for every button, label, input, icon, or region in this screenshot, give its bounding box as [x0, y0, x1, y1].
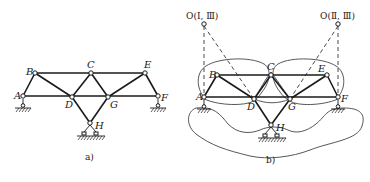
label-b-a: B [25, 66, 33, 77]
node-e [143, 71, 147, 75]
caption-a: a) [85, 152, 94, 162]
label-g-a: G [110, 99, 118, 110]
hinge-nodes-a [21, 71, 160, 125]
label-d-b: D [246, 101, 255, 112]
node-h [88, 121, 92, 125]
label-d-a: D [64, 99, 73, 110]
label-b-b: B [208, 69, 216, 80]
node-h [269, 123, 273, 127]
instant-center-1-3 [202, 22, 206, 26]
node-f [336, 95, 340, 99]
label-f-a: F [160, 92, 169, 103]
node-b [33, 71, 37, 75]
label-a-a: A [13, 90, 21, 101]
truss-diagram: A B C D E F G H a) [0, 0, 370, 182]
label-h-a: H [94, 120, 104, 131]
node-e [325, 73, 329, 77]
label-a-b: A [195, 91, 203, 102]
node-c [269, 73, 273, 77]
instant-center-2-3 [336, 22, 340, 26]
figure-b: O(Ⅰ, Ⅲ) O(Ⅱ, Ⅲ) A B C D E F G H b) [186, 11, 363, 165]
label-o-1-3: O(Ⅰ, Ⅲ) [186, 11, 218, 21]
figure-a: A B C D E F G H a) [13, 59, 169, 162]
label-g-b: G [288, 101, 296, 112]
node-c [89, 71, 93, 75]
label-f-b: F [340, 93, 349, 104]
caption-b: b) [266, 155, 275, 165]
label-e-a: E [143, 59, 152, 70]
body-ii-outline [273, 59, 344, 101]
label-e-b: E [317, 63, 326, 74]
truss-members-b [204, 75, 338, 125]
node-a [21, 94, 25, 98]
label-o-2-3: O(Ⅱ, Ⅲ) [320, 11, 355, 21]
label-h-b: H [275, 122, 285, 133]
label-c-a: C [87, 59, 95, 70]
node-f [156, 94, 160, 98]
truss-members-a [23, 73, 158, 123]
label-c-b: C [267, 61, 275, 72]
